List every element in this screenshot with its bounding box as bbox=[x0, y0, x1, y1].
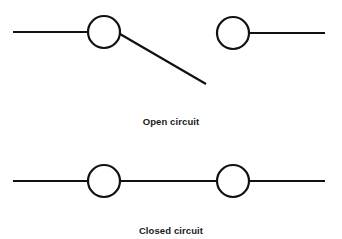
closed-left-terminal-icon bbox=[88, 165, 120, 197]
open-circuit-diagram bbox=[13, 16, 325, 84]
open-right-terminal-icon bbox=[217, 17, 249, 49]
closed-right-terminal-icon bbox=[217, 165, 249, 197]
open-circuit-label: Open circuit bbox=[0, 116, 342, 127]
closed-circuit-label: Closed circuit bbox=[0, 225, 342, 236]
closed-circuit-diagram bbox=[13, 165, 325, 197]
open-left-terminal-icon bbox=[88, 16, 120, 48]
open-switch-arm bbox=[120, 34, 206, 84]
